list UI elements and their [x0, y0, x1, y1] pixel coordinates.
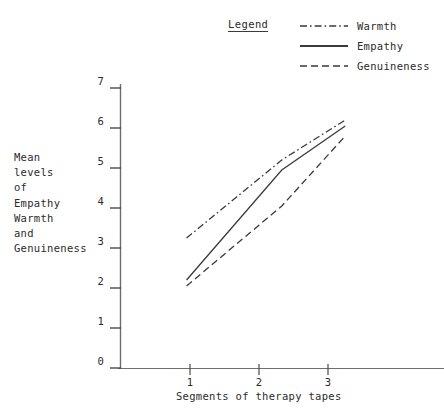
y-axis-title: Mean levels of Empathy Warmth and Genuin… [14, 150, 87, 256]
x-tick-marks [190, 364, 328, 375]
y-tick-label: 2 [88, 275, 104, 287]
legend: Legend WarmthEmpathyGenuineness [228, 16, 438, 76]
dashed-line-icon [300, 60, 348, 72]
x-tick-label: 3 [321, 376, 335, 388]
y-axis-title-line: of [14, 180, 87, 195]
y-tick-label: 3 [88, 235, 104, 247]
legend-entries: WarmthEmpathyGenuineness [300, 16, 430, 76]
y-axis-title-line: and [14, 226, 87, 241]
line-chart: Mean levels of Empathy Warmth and Genuin… [0, 0, 444, 420]
y-tick-label: 0 [88, 355, 104, 367]
y-axis-title-line: levels [14, 165, 87, 180]
series-line-warmth [187, 120, 346, 238]
y-tick-label: 4 [88, 195, 104, 207]
legend-item-label: Genuineness [357, 60, 430, 72]
y-axis-title-line: Genuineness [14, 241, 87, 256]
x-tick-label: 2 [252, 376, 266, 388]
dashdot-line-icon [300, 20, 348, 32]
y-tick-label: 5 [88, 155, 104, 167]
axes [118, 84, 444, 369]
data-series-group [187, 120, 346, 286]
y-tick-marks [110, 88, 121, 368]
legend-item-empathy[interactable]: Empathy [300, 36, 430, 56]
x-tick-label: 1 [183, 376, 197, 388]
legend-item-genuineness[interactable]: Genuineness [300, 56, 430, 76]
x-axis-title: Segments of therapy tapes [176, 390, 342, 402]
y-axis-title-line: Mean [14, 150, 87, 165]
series-line-empathy [187, 126, 346, 280]
y-tick-label: 7 [88, 75, 104, 87]
y-axis-title-line: Empathy [14, 196, 87, 211]
y-tick-label: 1 [88, 315, 104, 327]
legend-item-label: Empathy [357, 40, 403, 52]
y-axis-title-line: Warmth [14, 211, 87, 226]
legend-title: Legend [228, 18, 268, 32]
legend-item-warmth[interactable]: Warmth [300, 16, 430, 36]
solid-line-icon [300, 40, 348, 52]
y-tick-label: 6 [88, 115, 104, 127]
series-line-genuineness [187, 136, 346, 286]
legend-item-label: Warmth [357, 20, 397, 32]
